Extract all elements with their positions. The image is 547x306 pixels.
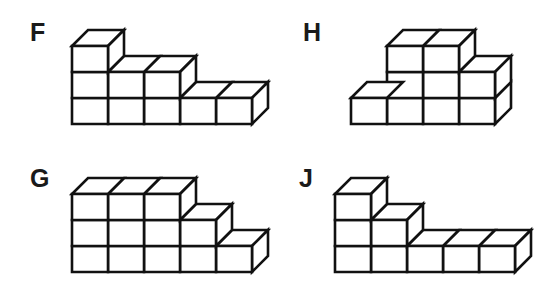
figure-drawing-f xyxy=(0,0,273,153)
figure-panel-f: F xyxy=(0,0,273,153)
figure-drawing-h xyxy=(273,0,547,153)
figure-panel-h: H xyxy=(273,0,547,153)
figure-drawing-j xyxy=(273,153,547,306)
figure-panel-j: J xyxy=(273,153,547,306)
figure-panel-g: G xyxy=(0,153,273,306)
figure-drawing-g xyxy=(0,153,273,306)
cube-figures-sheet: F H G J xyxy=(0,0,547,306)
